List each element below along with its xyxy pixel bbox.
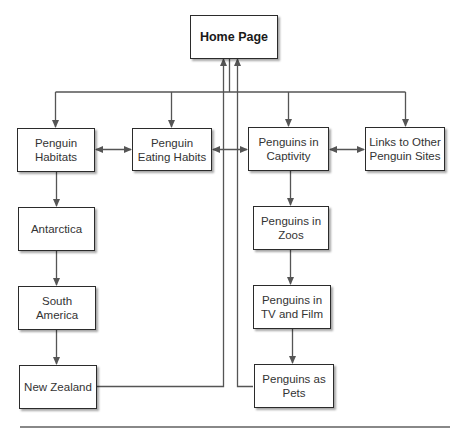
node-penguins-in-zoos: Penguins in Zoos [253, 206, 329, 250]
node-penguins-in-captivity: Penguins in Captivity [248, 127, 329, 171]
bottom-divider [20, 426, 450, 428]
site-map-diagram: Home Page Penguin Habitats Penguin Eatin… [0, 0, 459, 431]
node-penguins-as-pets: Penguins as Pets [254, 364, 334, 408]
node-penguin-eating-habits: Penguin Eating Habits [132, 128, 212, 171]
node-label: South America [22, 294, 92, 322]
node-penguin-habitats: Penguin Habitats [17, 128, 95, 172]
node-home-page: Home Page [190, 15, 278, 59]
node-label: Antarctica [31, 222, 82, 236]
node-label: Penguins in TV and Film [257, 293, 327, 321]
node-antarctica: Antarctica [18, 207, 95, 251]
node-new-zealand: New Zealand [19, 365, 97, 409]
node-label: New Zealand [24, 380, 92, 394]
node-label: Penguins in Captivity [252, 135, 325, 163]
node-south-america: South America [18, 286, 96, 330]
node-label: Penguins in Zoos [257, 214, 325, 242]
node-label: Penguin Habitats [21, 136, 91, 164]
node-penguins-in-tv-and-film: Penguins in TV and Film [253, 285, 331, 329]
node-label: Penguins as Pets [258, 372, 330, 400]
node-label: Home Page [200, 30, 268, 44]
node-links-to-other-sites: Links to Other Penguin Sites [365, 127, 445, 171]
node-label: Penguin Eating Habits [136, 136, 208, 164]
node-label: Links to Other Penguin Sites [369, 135, 441, 163]
